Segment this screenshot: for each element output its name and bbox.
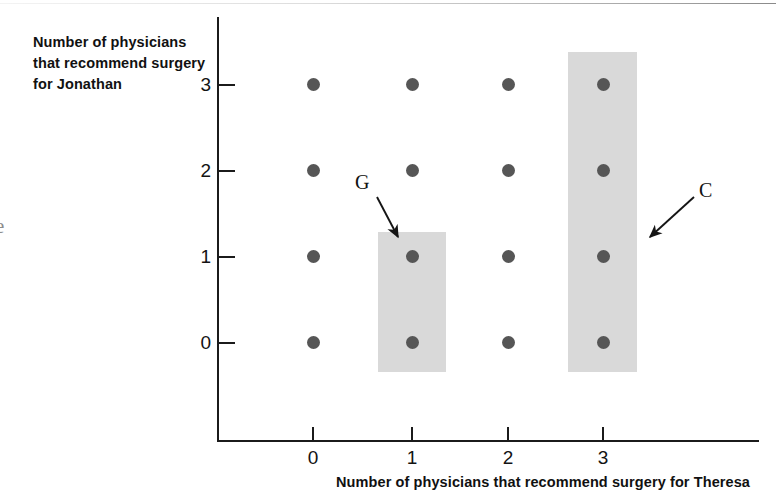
x-tick-label-3: 3 [591, 448, 615, 467]
highlight-band-c [568, 52, 637, 372]
data-point [406, 250, 419, 263]
y-tick-label-3: 3 [189, 75, 211, 94]
y-tick-3 [219, 84, 235, 86]
y-tick-label-0: 0 [189, 333, 211, 352]
annotation-label-g: G [355, 172, 369, 192]
data-point [597, 78, 610, 91]
x-tick-1 [411, 427, 413, 440]
x-tick-label-0: 0 [301, 448, 325, 467]
arrow-to-band-g [377, 197, 398, 237]
y-axis-line [217, 17, 219, 441]
x-tick-label-2: 2 [496, 448, 520, 467]
y-tick-0 [219, 342, 235, 344]
x-tick-label-1: 1 [400, 448, 424, 467]
data-point [307, 164, 320, 177]
scatter-plot-figure: e Number of physicians that recommend su… [0, 0, 776, 497]
x-tick-2 [507, 427, 509, 440]
data-point [597, 250, 610, 263]
x-tick-0 [312, 427, 314, 440]
x-tick-3 [602, 427, 604, 440]
data-point [502, 78, 515, 91]
cut-off-margin-glyph: e [0, 214, 4, 239]
data-point [502, 164, 515, 177]
y-tick-2 [219, 170, 235, 172]
data-point [597, 336, 610, 349]
data-point [502, 336, 515, 349]
y-tick-1 [219, 256, 235, 258]
y-axis-label: Number of physicians that recommend surg… [33, 32, 215, 95]
data-point [406, 78, 419, 91]
data-point [597, 164, 610, 177]
x-axis-label: Number of physicians that recommend surg… [336, 473, 750, 491]
arrow-to-band-c [650, 197, 694, 237]
data-point [307, 78, 320, 91]
data-point [307, 250, 320, 263]
data-point [406, 164, 419, 177]
data-point [406, 336, 419, 349]
y-tick-label-2: 2 [189, 161, 211, 180]
annotation-label-c: C [699, 180, 712, 200]
page-scan-line [0, 3, 776, 4]
y-tick-label-1: 1 [189, 247, 211, 266]
data-point [502, 250, 515, 263]
data-point [307, 336, 320, 349]
x-axis-line [217, 440, 759, 442]
